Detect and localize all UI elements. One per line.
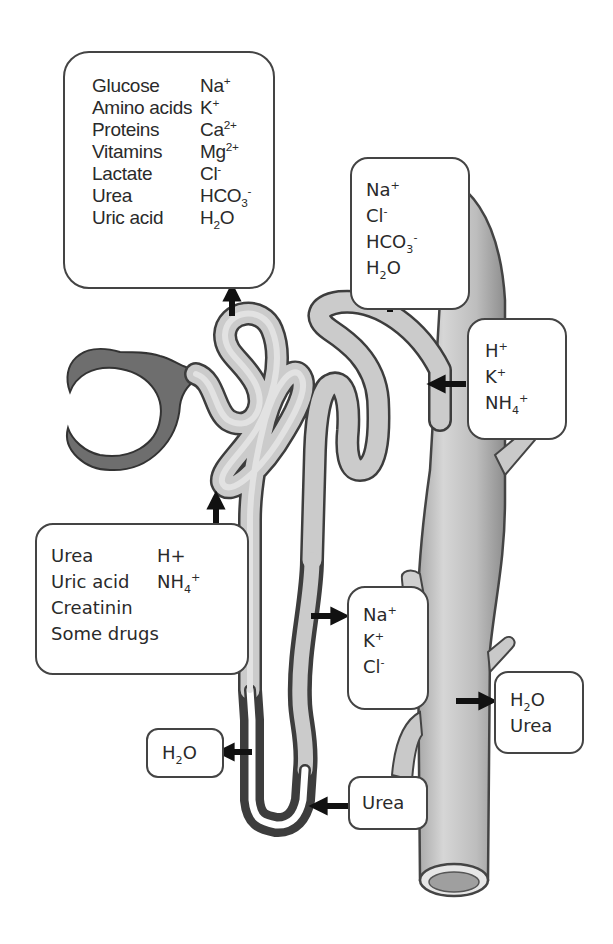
ion-label: K+ — [200, 97, 251, 119]
ion-label: Na+ — [366, 177, 468, 203]
solute-label: Urea — [362, 790, 426, 816]
ion-label: NH4+ — [485, 390, 565, 416]
solute-label: Some drugs — [51, 621, 157, 647]
ion-label: H2O — [162, 740, 222, 766]
ion-label: HCO3- — [200, 185, 251, 207]
solute-label: Creatinin — [51, 595, 157, 621]
ion-label: Cl- — [200, 163, 251, 185]
solute-label: Urea — [92, 185, 200, 207]
ion-label: H2O — [510, 687, 582, 713]
ion-label: NH4+ — [157, 569, 200, 595]
proximal-secretion-box: Urea Uric acid Creatinin Some drugs H+ N… — [35, 523, 249, 675]
collecting-duct-box: H2O Urea — [494, 671, 584, 754]
solute-label: Vitamins — [92, 141, 200, 163]
distal-reabsorption-box: Na+ Cl- HCO3- H2O — [350, 157, 470, 310]
ion-label: Mg2+ — [200, 141, 251, 163]
ion-label: Ca2+ — [200, 119, 251, 141]
ion-label: Na+ — [200, 75, 251, 97]
ion-label: H+ — [157, 543, 200, 569]
loop-urea-box: Urea — [348, 776, 428, 830]
solute-label: Urea — [51, 543, 157, 569]
solute-label: Lactate — [92, 163, 200, 185]
solute-label: Glucose — [92, 75, 200, 97]
ion-label: H2O — [200, 207, 251, 229]
ion-label: H2O — [366, 255, 468, 281]
proximal-reabsorption-box: Glucose Amino acids Proteins Vitamins La… — [63, 51, 275, 289]
solute-label: Proteins — [92, 119, 200, 141]
ion-label: K+ — [485, 364, 565, 390]
ion-label: K+ — [363, 628, 427, 654]
solute-label: Uric acid — [92, 207, 200, 229]
ion-label: Na+ — [363, 602, 427, 628]
solute-label: Urea — [510, 713, 582, 739]
ion-label: H+ — [485, 338, 565, 364]
ion-label: HCO3- — [366, 229, 468, 255]
ion-label: Cl- — [363, 654, 427, 680]
ion-label: Cl- — [366, 203, 468, 229]
ascending-limb-box: Na+ K+ Cl- — [347, 586, 429, 710]
descending-water-box: H2O — [146, 728, 224, 778]
distal-secretion-box: H+ K+ NH4+ — [467, 318, 567, 440]
nephron-diagram: Glucose Amino acids Proteins Vitamins La… — [0, 0, 613, 944]
solute-label: Amino acids — [92, 97, 200, 119]
bowmans-capsule — [67, 349, 200, 470]
solute-label: Uric acid — [51, 569, 157, 595]
